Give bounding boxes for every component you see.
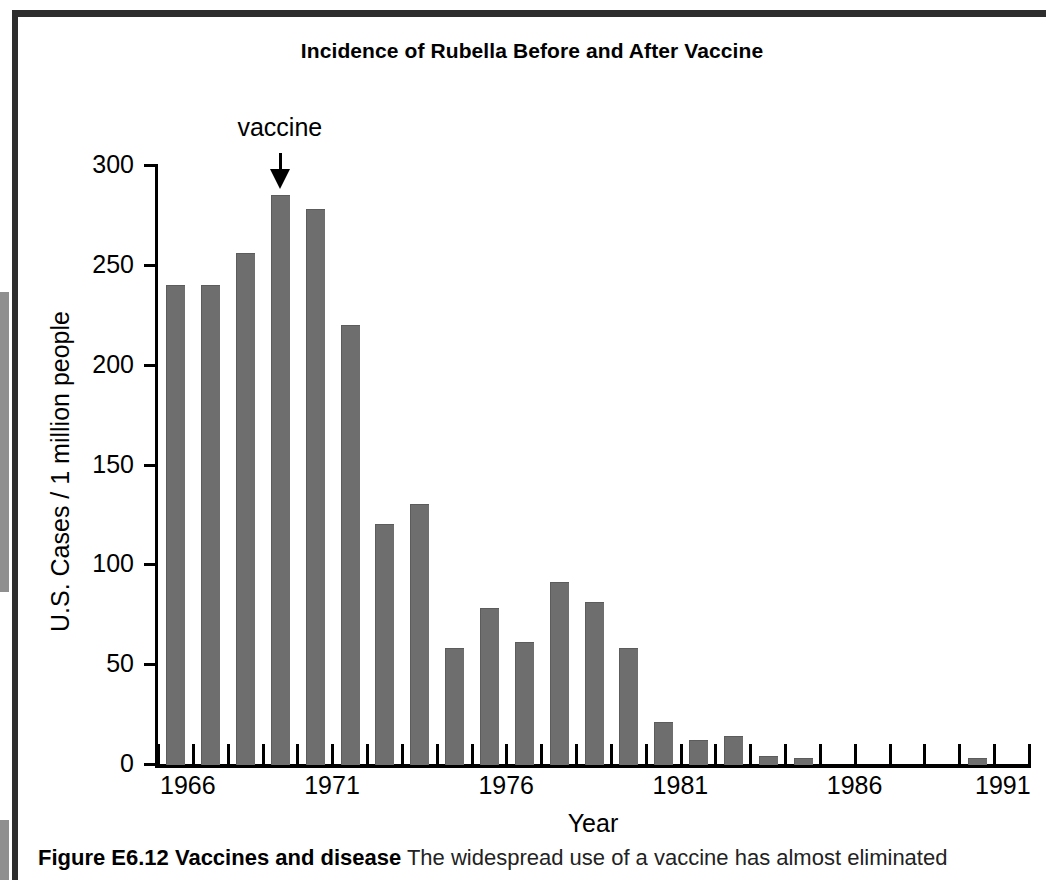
figure-page: Incidence of Rubella Before and After Va… [0, 0, 1046, 880]
y-tick-250 [144, 264, 158, 267]
x-tick-label-1981: 1981 [653, 771, 709, 800]
y-tick-100 [144, 563, 158, 566]
bar-1973 [410, 504, 429, 765]
x-tick-label-1971: 1971 [304, 771, 360, 800]
bar-1983 [759, 756, 778, 765]
x-tick-1979 [610, 744, 613, 764]
x-tick-1968 [227, 744, 230, 764]
x-tick-1982 [714, 744, 717, 764]
caption-figure-number: Figure E6.12 Vaccines and disease [38, 845, 401, 870]
chart-figure: Incidence of Rubella Before and After Va… [18, 17, 1046, 835]
x-tick-1974 [436, 744, 439, 764]
x-tick-1972 [366, 744, 369, 764]
x-tick-1980 [645, 744, 648, 764]
y-tick-300 [144, 164, 158, 167]
bar-1969 [271, 195, 290, 765]
x-tick-1989 [958, 744, 961, 764]
y-tick-label-250: 250 [72, 252, 134, 277]
x-tick-1986 [854, 744, 857, 764]
page-top-rule [12, 10, 1046, 17]
bar-1976 [515, 642, 534, 765]
bar-1968 [236, 253, 255, 765]
bar-1984 [794, 758, 813, 765]
page-left-tab-lower [0, 820, 9, 880]
x-tick-label-1976: 1976 [478, 771, 534, 800]
bar-1972 [375, 524, 394, 765]
x-tick-1983 [749, 744, 752, 764]
x-tick-1975 [471, 744, 474, 764]
vaccine-arrow-shaft [279, 153, 282, 169]
vaccine-arrow-head-icon [270, 169, 290, 189]
x-tick-1978 [575, 744, 578, 764]
vaccine-annotation-label: vaccine [237, 113, 322, 142]
bar-1974 [445, 648, 464, 765]
y-tick-50 [144, 663, 158, 666]
y-tick-200 [144, 364, 158, 367]
y-tick-150 [144, 464, 158, 467]
x-tick-1970 [296, 744, 299, 764]
x-tick-1987 [889, 744, 892, 764]
x-tick-1988 [923, 744, 926, 764]
bar-1981 [689, 740, 708, 765]
y-tick-label-200: 200 [72, 352, 134, 377]
bar-1980 [654, 722, 673, 765]
y-tick-label-100: 100 [72, 551, 134, 576]
bar-1982 [724, 736, 743, 765]
y-tick-label-150: 150 [72, 452, 134, 477]
bar-1975 [480, 608, 499, 765]
x-tick-1973 [401, 744, 404, 764]
x-tick-1976 [505, 744, 508, 764]
bar-1989 [968, 758, 987, 765]
x-tick-label-1986: 1986 [827, 771, 883, 800]
y-tick-label-300: 300 [72, 152, 134, 177]
bar-1978 [585, 602, 604, 765]
x-tick-1971 [331, 744, 334, 764]
x-tick-1990 [993, 744, 996, 764]
bar-1971 [341, 325, 360, 765]
bar-1977 [550, 582, 569, 765]
y-tick-label-0: 0 [72, 751, 134, 776]
x-tick-1969 [262, 744, 265, 764]
bar-1966 [166, 285, 185, 765]
y-tick-0 [144, 763, 158, 766]
x-tick-1991 [1028, 744, 1031, 764]
x-tick-1985 [819, 744, 822, 764]
figure-caption: Figure E6.12 Vaccines and disease The wi… [38, 845, 1028, 871]
x-tick-label-1966: 1966 [160, 771, 216, 800]
x-tick-1981 [680, 744, 683, 764]
y-tick-label-50: 50 [72, 651, 134, 676]
caption-text: The widespread use of a vaccine has almo… [401, 845, 947, 870]
x-tick-1984 [784, 744, 787, 764]
x-tick-1967 [192, 744, 195, 764]
x-tick-1977 [540, 744, 543, 764]
bar-1967 [201, 285, 220, 765]
x-tick-label-1991: 1991 [975, 771, 1031, 800]
bar-1970 [306, 209, 325, 765]
x-axis-title: Year [155, 809, 1031, 838]
x-tick-1966 [157, 744, 160, 764]
bar-1979 [619, 648, 638, 765]
plot-area: 050100150200250300 196619711976198119861… [18, 17, 1046, 835]
page-left-tab [0, 292, 9, 592]
y-axis-title: U.S. Cases / 1 million people [46, 222, 75, 722]
